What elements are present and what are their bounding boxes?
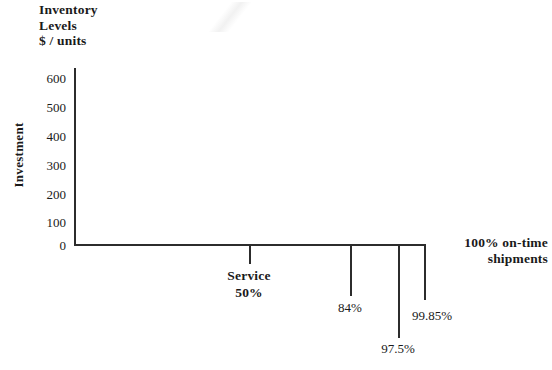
y-tick-label-200: 200 — [30, 188, 66, 201]
y-tick-label-500: 500 — [30, 101, 66, 114]
chart-header-caption: Inventory Levels $ / units — [39, 2, 98, 49]
chart-canvas: Inventory Levels $ / units Investment 60… — [0, 0, 552, 370]
x-label-97-5: 97.5% — [366, 341, 430, 356]
header-line-inventory: Inventory — [39, 2, 98, 18]
x-tick-line-97-5 — [398, 244, 400, 338]
header-line-units: $ / units — [39, 33, 98, 49]
y-tick-label-100: 100 — [30, 216, 66, 229]
x-label-service-name: Service — [199, 268, 299, 283]
y-tick-label-600: 600 — [30, 72, 66, 85]
axis-end-annotation: 100% on-time shipments — [416, 235, 548, 267]
y-tick-label-400: 400 — [30, 130, 66, 143]
annotation-line-on-time: 100% on-time — [416, 235, 548, 251]
header-line-levels: Levels — [39, 18, 98, 34]
y-tick-label-0: 0 — [30, 239, 66, 252]
x-label-84: 84% — [320, 300, 380, 315]
x-tick-line-84 — [350, 244, 352, 296]
x-tick-line-service-50 — [249, 244, 251, 264]
x-label-99-85: 99.85% — [412, 308, 452, 323]
scan-artifact — [198, 2, 262, 32]
y-tick-label-300: 300 — [30, 159, 66, 172]
y-axis-title: Investment — [11, 95, 27, 215]
annotation-line-shipments: shipments — [416, 251, 548, 267]
y-axis-line — [74, 68, 76, 246]
x-label-service-value: 50% — [199, 285, 299, 300]
